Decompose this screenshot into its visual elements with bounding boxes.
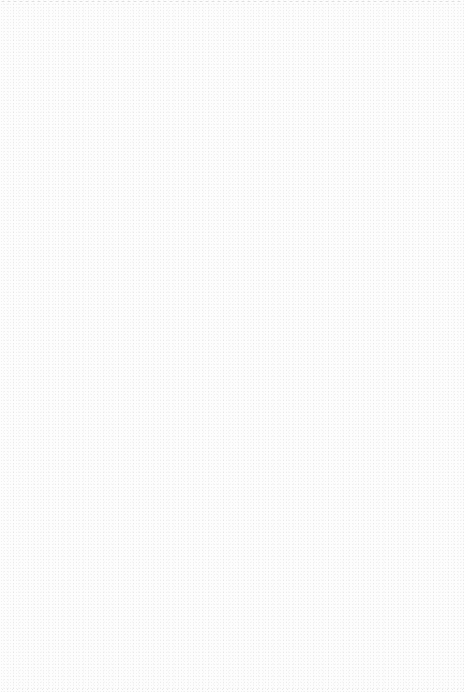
- noise-bottom-edge: [0, 688, 464, 692]
- blank-canvas: [0, 0, 464, 692]
- noise-top-edge: [0, 0, 464, 4]
